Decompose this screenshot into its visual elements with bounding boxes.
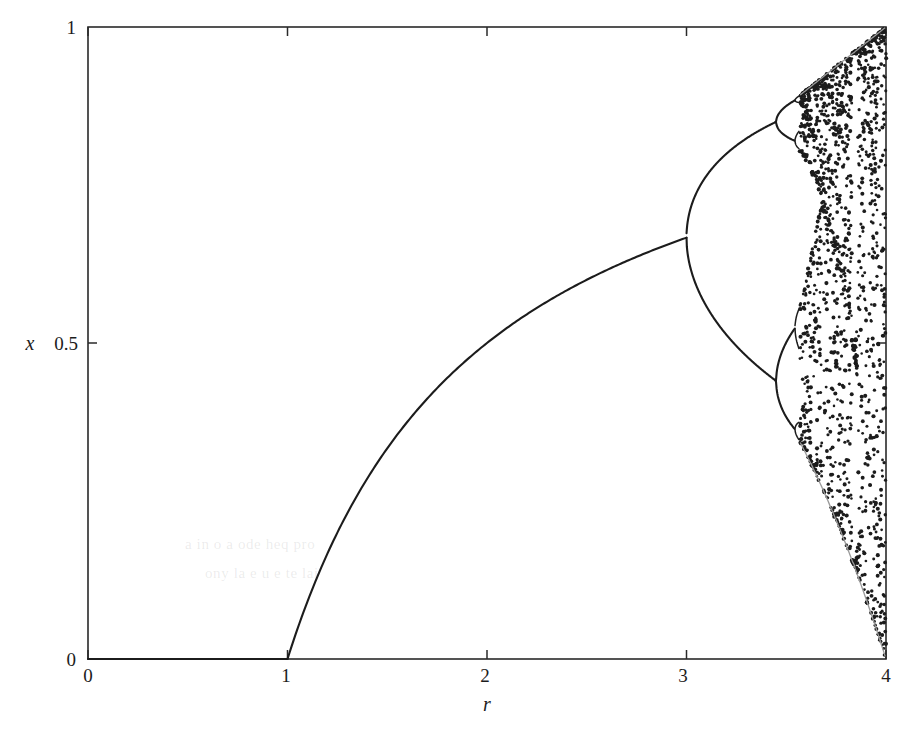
chaos-dot	[864, 509, 868, 513]
chaos-dot	[867, 77, 870, 80]
chaos-dot	[875, 523, 879, 527]
chaos-dot	[878, 364, 881, 367]
chaos-dot	[805, 280, 808, 283]
chaos-dot	[808, 89, 811, 92]
chaos-dot	[867, 338, 870, 341]
chaos-dot	[873, 470, 877, 474]
chaos-dot	[870, 320, 873, 323]
chaos-dot	[834, 107, 837, 110]
chaos-dot	[873, 199, 876, 202]
chaos-dot	[867, 63, 870, 66]
chaos-dot	[848, 233, 851, 236]
chaos-dot	[875, 102, 878, 105]
chaos-dot	[809, 385, 813, 389]
chaos-dot	[872, 82, 875, 85]
chaos-dot	[828, 430, 832, 434]
chaos-dot	[846, 439, 849, 442]
chaos-dot	[863, 80, 866, 83]
chaos-dot	[837, 475, 840, 478]
chaos-dot	[841, 428, 844, 431]
chaos-dot	[833, 122, 836, 125]
chaos-dot	[836, 297, 840, 301]
chaos-dot	[878, 184, 881, 187]
chaos-dot	[809, 421, 812, 424]
chaos-dot	[854, 359, 858, 363]
chaos-dot	[838, 84, 841, 87]
chaos-dot	[850, 191, 853, 194]
chaos-dot	[839, 478, 842, 481]
chaos-dot	[864, 441, 867, 444]
chaos-dot	[870, 192, 873, 195]
chaos-dot	[850, 526, 853, 529]
chaos-dot	[879, 502, 883, 506]
chaos-dot	[829, 213, 832, 216]
chaos-dot	[812, 260, 815, 263]
chaos-dot	[839, 522, 842, 525]
chaos-envelope-edge	[800, 28, 885, 95]
chaos-dot	[815, 360, 819, 364]
chaos-dot	[827, 102, 830, 105]
y-tick-label-0p5: 0.5	[54, 333, 78, 354]
attractor-branch	[795, 328, 799, 348]
chaos-dot	[840, 276, 843, 279]
chaos-dot	[862, 289, 866, 293]
chaos-dot	[816, 221, 819, 224]
chaos-dot	[827, 241, 830, 244]
chaos-dot	[822, 297, 826, 301]
x-tick-label-2: 2	[480, 665, 490, 686]
chaos-dot	[859, 235, 862, 238]
chaos-dot	[873, 55, 877, 59]
chaos-dot	[849, 116, 853, 120]
chaos-dot	[827, 219, 831, 223]
chaos-dot	[802, 350, 805, 353]
attractor-branch	[687, 122, 776, 233]
chaos-dot	[879, 488, 883, 492]
chaos-dot	[838, 251, 841, 254]
chaos-dot	[834, 461, 837, 464]
chaos-dot	[844, 246, 847, 249]
chaos-dot	[883, 576, 886, 579]
chaos-dot	[823, 187, 826, 190]
chaos-dot	[841, 86, 844, 89]
chaos-dot	[881, 469, 884, 472]
chaos-dot	[828, 336, 832, 340]
chaos-dot	[825, 138, 828, 141]
chaos-dot	[874, 203, 878, 207]
chaos-dot	[827, 491, 830, 494]
chaos-dot	[872, 558, 875, 561]
chaos-dot	[836, 351, 840, 355]
chaos-dot	[884, 513, 887, 516]
chaos-dot	[848, 520, 852, 524]
chaos-dot	[857, 429, 860, 432]
chaos-dot	[875, 531, 878, 534]
chaos-dot	[879, 419, 883, 423]
chaos-dot	[878, 358, 881, 361]
chaos-dot	[814, 317, 817, 320]
chaos-dot	[876, 615, 879, 618]
chaos-dot	[883, 594, 887, 598]
chaos-dot	[833, 391, 837, 395]
chaos-dot	[819, 97, 823, 101]
chaos-dot	[838, 462, 842, 466]
chaos-dot	[868, 456, 872, 460]
bifurcation-plot: 0 1 2 3 4 0 0.5 1 r x	[0, 0, 911, 730]
chaos-dot	[884, 111, 887, 114]
chaos-dot	[843, 163, 846, 166]
chaos-dot	[799, 417, 802, 420]
chaos-dot	[831, 182, 835, 186]
chaos-dot	[842, 288, 846, 292]
chaos-dot	[883, 331, 887, 335]
chaos-dot	[865, 309, 868, 312]
chaos-dot	[832, 316, 836, 320]
chaos-dot	[860, 535, 864, 539]
chaos-dot	[809, 312, 813, 316]
chaos-dot	[808, 291, 811, 294]
chaos-dot	[840, 431, 843, 434]
chaos-dot	[825, 307, 829, 311]
chaos-dot	[880, 187, 884, 191]
chaos-dot	[808, 429, 811, 432]
x-tick-label-1: 1	[281, 665, 291, 686]
chaos-dot	[820, 363, 823, 366]
chaos-dot	[884, 213, 887, 216]
chaos-dot	[860, 486, 864, 490]
